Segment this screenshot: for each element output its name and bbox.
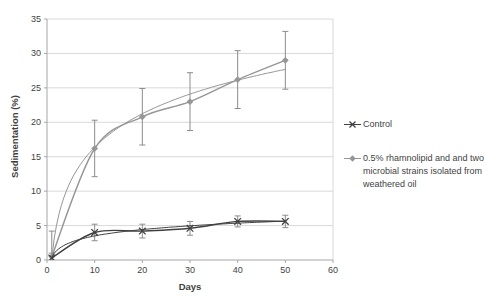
x-tick-label: 40	[233, 265, 243, 275]
x-tick-label: 50	[280, 265, 290, 275]
legend-label-control: Control	[363, 118, 392, 131]
y-tick-label: 30	[31, 48, 41, 58]
sedimentation-line-chart: 051015202530350102030405060 Sedimentatio…	[0, 0, 497, 305]
x-tick-label: 10	[90, 265, 100, 275]
y-axis-title: Sedimentation (%)	[9, 77, 20, 197]
y-tick-label: 0	[36, 255, 41, 265]
x-tick-label: 30	[185, 265, 195, 275]
rhamnolipid-line-diamond-marker-icon	[344, 154, 361, 163]
legend-label-line: 0.5% rhamnolipid and and two	[363, 152, 484, 165]
legend-item-rhamnolipid: 0.5% rhamnolipid and and two microbial s…	[344, 152, 484, 191]
x-axis-title: Days	[47, 281, 333, 292]
x-tick-label: 0	[44, 265, 49, 275]
series-line	[52, 221, 285, 258]
legend-label-line: Control	[363, 118, 392, 131]
x-tick-label: 60	[328, 265, 338, 275]
y-tick-label: 15	[31, 152, 41, 162]
legend-label-rhamnolipid: 0.5% rhamnolipid and and two microbial s…	[363, 152, 484, 191]
diamond-marker-icon	[234, 76, 241, 83]
series-control	[48, 215, 288, 263]
y-tick-label: 5	[36, 221, 41, 231]
y-tick-label: 35	[31, 14, 41, 24]
legend-item-control: Control	[344, 118, 392, 131]
diamond-marker-icon	[282, 57, 289, 64]
legend-label-line: weathered oil	[363, 178, 484, 191]
control-line-x-marker-icon	[344, 120, 361, 129]
trendline	[52, 221, 285, 257]
y-tick-label: 25	[31, 83, 41, 93]
y-tick-label: 20	[31, 117, 41, 127]
y-tick-label: 10	[31, 186, 41, 196]
legend-label-line: microbial strains isolated from	[363, 165, 484, 178]
diamond-marker-icon	[187, 98, 194, 105]
x-tick-label: 20	[137, 265, 147, 275]
